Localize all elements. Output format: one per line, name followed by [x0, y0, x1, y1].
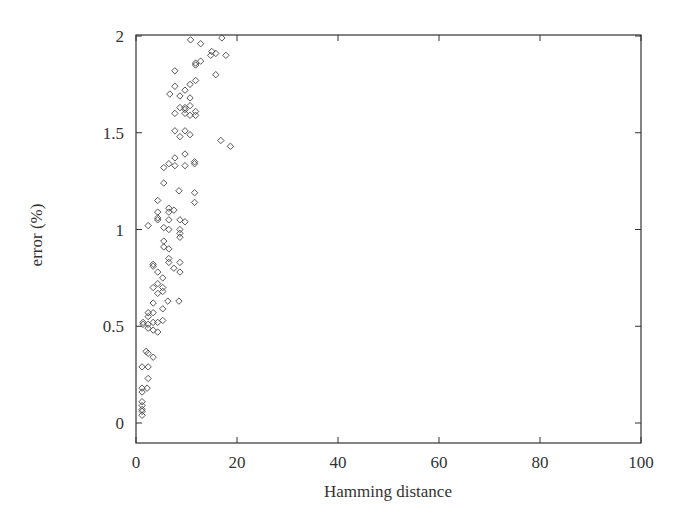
- data-point: [145, 375, 151, 381]
- plot-border: [136, 35, 641, 443]
- y-tick-label: 1: [116, 221, 125, 240]
- data-point: [171, 265, 177, 271]
- data-point: [165, 298, 171, 304]
- data-point: [182, 162, 188, 168]
- x-tick-label: 40: [330, 453, 347, 472]
- data-point: [172, 83, 178, 89]
- data-point: [176, 188, 182, 194]
- x-tick-label: 100: [628, 453, 654, 472]
- data-point: [177, 93, 183, 99]
- data-point: [177, 234, 183, 240]
- y-tick-label: 1.5: [103, 124, 124, 143]
- y-tick-label: 2: [116, 27, 125, 46]
- data-point: [145, 350, 151, 356]
- x-axis-label: Hamming distance: [324, 482, 452, 501]
- data-point: [166, 161, 172, 167]
- data-point: [155, 217, 161, 223]
- data-point: [172, 110, 178, 116]
- data-point: [150, 354, 156, 360]
- data-point: [227, 143, 233, 149]
- data-point: [218, 137, 224, 143]
- data-points: [139, 35, 234, 419]
- y-tick-label: 0: [116, 414, 125, 433]
- data-point: [150, 284, 156, 290]
- x-tick-label: 80: [532, 453, 549, 472]
- data-point: [172, 68, 178, 74]
- data-point: [155, 280, 161, 286]
- data-point: [182, 151, 188, 157]
- data-point: [187, 81, 193, 87]
- data-point: [172, 155, 178, 161]
- data-point: [145, 222, 151, 228]
- data-point: [177, 269, 183, 275]
- data-point: [161, 164, 167, 170]
- data-point: [182, 128, 188, 134]
- data-point: [143, 348, 149, 354]
- data-point: [172, 162, 178, 168]
- y-axis-label: error (%): [27, 204, 46, 267]
- data-point: [191, 190, 197, 196]
- plot-frame: [136, 35, 641, 443]
- data-point: [145, 313, 151, 319]
- data-point: [223, 52, 229, 58]
- data-point: [150, 300, 156, 306]
- y-tick-label: 0.5: [103, 317, 124, 336]
- data-point: [155, 269, 161, 275]
- data-point: [192, 77, 198, 83]
- data-point: [166, 217, 172, 223]
- data-point: [160, 275, 166, 281]
- data-point: [191, 159, 197, 165]
- x-tick-label: 60: [431, 453, 448, 472]
- data-point: [192, 108, 198, 114]
- data-point: [187, 131, 193, 137]
- data-point: [213, 72, 219, 78]
- data-point: [177, 133, 183, 139]
- data-point: [155, 197, 161, 203]
- data-point: [191, 199, 197, 205]
- data-point: [150, 261, 156, 267]
- data-point: [150, 263, 156, 269]
- data-point: [187, 95, 193, 101]
- data-point: [161, 180, 167, 186]
- axis-ticks: 02040608010000.511.52: [103, 27, 654, 472]
- data-point: [187, 37, 193, 43]
- data-point: [166, 259, 172, 265]
- data-point: [219, 35, 225, 41]
- data-point: [191, 161, 197, 167]
- data-point: [192, 62, 198, 68]
- x-tick-label: 0: [132, 453, 141, 472]
- data-point: [177, 226, 183, 232]
- data-point: [139, 389, 145, 395]
- data-point: [160, 284, 166, 290]
- data-point: [160, 306, 166, 312]
- data-point: [177, 259, 183, 265]
- data-point: [166, 255, 172, 261]
- data-point: [172, 128, 178, 134]
- data-point: [139, 399, 145, 405]
- data-point: [167, 91, 173, 97]
- data-point: [197, 41, 203, 47]
- scatter-chart: 02040608010000.511.52 Hamming distance e…: [0, 0, 685, 523]
- data-point: [177, 230, 183, 236]
- x-tick-label: 20: [229, 453, 246, 472]
- data-point: [176, 298, 182, 304]
- data-point: [182, 87, 188, 93]
